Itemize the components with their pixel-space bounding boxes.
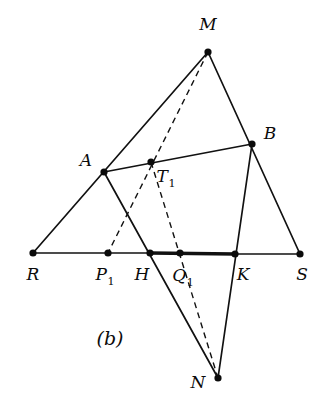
vertex-dot-r (29, 249, 36, 256)
segment-r-m (33, 52, 208, 253)
vertex-label-subscript: 1 (187, 276, 194, 289)
vertex-label-h: H (134, 264, 151, 284)
segment-h-k (150, 253, 235, 254)
segment-m-s (208, 52, 300, 254)
vertex-dot-p1 (104, 249, 111, 256)
vertex-dot-k (231, 250, 238, 257)
vertex-label-k: K (236, 264, 251, 284)
segment-m-p1 (108, 52, 208, 253)
geometry-diagram-canvas: MBAT1RP1HQ1KSN (b) (0, 0, 322, 403)
vertex-dot-m (204, 48, 211, 55)
vertex-label-n: N (190, 372, 207, 392)
vertex-dot-s (296, 250, 303, 257)
vertex-labels-layer: MBAT1RP1HQ1KSN (26, 14, 308, 392)
vertex-label-b: B (263, 123, 277, 143)
segment-b-n (218, 144, 252, 378)
vertex-label-s: S (296, 264, 308, 284)
vertex-label-a: A (78, 150, 92, 170)
vertex-label-t1: T1 (157, 166, 176, 190)
vertex-dot-n (214, 374, 221, 381)
vertex-label-p1: P1 (95, 264, 115, 288)
vertex-dot-q1 (176, 249, 183, 256)
segments-layer (33, 52, 300, 378)
vertex-dot-h (146, 249, 153, 256)
figure-caption: (b) (97, 327, 124, 349)
vertex-dot-t1 (147, 158, 154, 165)
vertex-label-r: R (26, 264, 40, 284)
vertex-label-subscript: 1 (107, 275, 114, 288)
vertex-label-q1: Q1 (172, 265, 193, 289)
vertex-label-m: M (198, 14, 217, 34)
vertex-dot-b (248, 140, 255, 147)
vertex-label-subscript: 1 (168, 177, 175, 190)
geometry-figure: MBAT1RP1HQ1KSN (b) (0, 0, 322, 403)
vertex-dot-a (100, 168, 107, 175)
segment-a-b (104, 144, 252, 172)
